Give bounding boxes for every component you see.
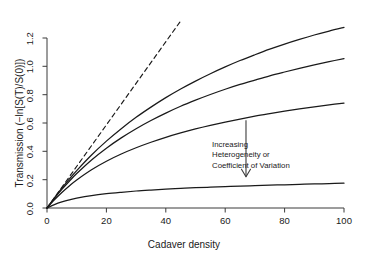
x-axis-ticks xyxy=(47,208,344,213)
x-tick-label-5: 100 xyxy=(329,216,359,226)
heterogeneity-annotation: Increasing Heterogeneity or Coefficient … xyxy=(212,140,290,171)
y-tick-label-1: 0.2 xyxy=(25,167,35,193)
y-axis-title: Transmission (−ln[S(T)/S(0)]) xyxy=(15,33,25,213)
y-tick-label-3: 0.6 xyxy=(25,111,35,137)
y-tick-label-6: 1.2 xyxy=(25,26,35,52)
annotation-line-3: Coefficient of Variation xyxy=(212,161,290,171)
data-series-group xyxy=(47,21,344,208)
series-line-curve-4 xyxy=(47,183,344,208)
series-line-curve-1 xyxy=(47,27,344,208)
y-tick-label-4: 0.8 xyxy=(25,82,35,108)
y-tick-label-5: 1.0 xyxy=(25,54,35,80)
x-tick-label-3: 60 xyxy=(210,216,240,226)
axes-group xyxy=(43,38,345,213)
figure-panel: 0.0 0.2 0.4 0.6 0.8 1.0 1.2 0 20 40 60 8… xyxy=(0,0,368,261)
x-tick-label-4: 80 xyxy=(270,216,300,226)
x-tick-label-1: 20 xyxy=(91,216,121,226)
annotation-line-2: Heterogeneity or xyxy=(212,150,290,160)
series-line-mass-action-dashed xyxy=(47,21,181,208)
y-axis-ticks xyxy=(43,38,48,208)
x-tick-label-0: 0 xyxy=(32,216,62,226)
annotation-line-1: Increasing xyxy=(212,140,290,150)
x-axis-title: Cadaver density xyxy=(0,240,368,250)
y-tick-label-2: 0.4 xyxy=(25,139,35,165)
x-tick-label-2: 40 xyxy=(151,216,181,226)
